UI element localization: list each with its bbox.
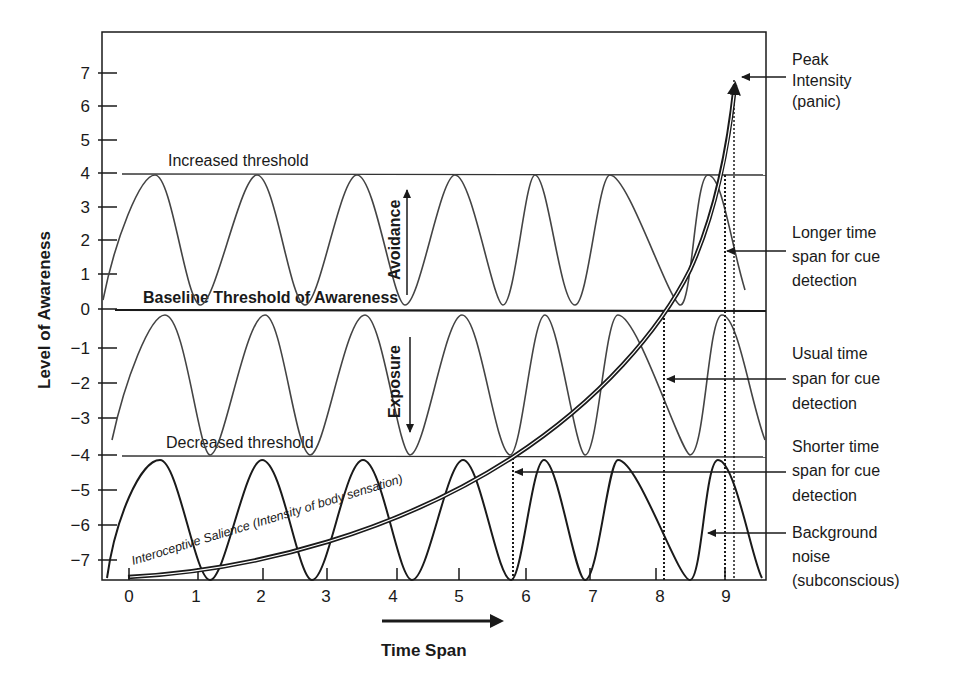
longer-label-line1: Longer time [792, 224, 877, 241]
increased-threshold-line [122, 174, 766, 175]
y-tick-label: −2 [71, 374, 90, 393]
exposure-label: Exposure [386, 345, 403, 418]
y-tick-label: −4 [71, 446, 90, 465]
y-tick-label: 4 [81, 164, 90, 183]
x-tick-label: 6 [521, 587, 530, 606]
y-tick-label: 5 [81, 131, 90, 150]
x-tick-label: 2 [256, 587, 265, 606]
y-tick-label: −6 [71, 516, 90, 535]
y-axis-ticks [98, 73, 117, 560]
x-tick-label: 0 [124, 587, 133, 606]
interoceptive-salience-label: Interoceptive Salience (Intensity of bod… [130, 472, 405, 568]
x-tick-label: 8 [655, 587, 664, 606]
y-tick-label: 6 [81, 97, 90, 116]
y-tick-label: 3 [81, 198, 90, 217]
x-tick-label: 7 [588, 587, 597, 606]
usual-label-line1: Usual time [792, 345, 868, 362]
y-tick-labels: 7 6 5 4 3 2 1 0 −1 −2 −3 −4 −5 −6 −7 [71, 64, 90, 570]
upper-oscillation-wave [103, 175, 745, 305]
awareness-diagram: 7 6 5 4 3 2 1 0 −1 −2 −3 −4 −5 −6 −7 Lev… [0, 0, 953, 685]
plot-frame [102, 32, 766, 580]
decreased-threshold-label: Decreased threshold [166, 434, 314, 451]
x-tick-label: 3 [321, 587, 330, 606]
x-tick-label: 1 [191, 587, 200, 606]
y-tick-label: 7 [81, 64, 90, 83]
shorter-label-line1: Shorter time [792, 438, 879, 455]
usual-label-line3: detection [792, 395, 857, 412]
y-axis-title: Level of Awareness [35, 231, 54, 389]
y-tick-label: −3 [71, 409, 90, 428]
x-axis-title: Time Span [381, 641, 467, 660]
increased-threshold-label: Increased threshold [168, 152, 309, 169]
decreased-threshold-line [122, 456, 766, 457]
peak-label-line3: (panic) [792, 93, 841, 110]
shorter-label-line3: detection [792, 487, 857, 504]
background-label-line1: Background [792, 524, 877, 541]
x-tick-label: 4 [388, 587, 397, 606]
y-tick-label: −1 [71, 339, 90, 358]
y-tick-label: −5 [71, 481, 90, 500]
y-tick-label: 1 [81, 265, 90, 284]
usual-label-line2: span for cue [792, 370, 880, 387]
longer-label-line2: span for cue [792, 248, 880, 265]
peak-label-line2: Intensity [792, 72, 852, 89]
x-tick-label: 9 [721, 587, 730, 606]
peak-label-line1: Peak [792, 51, 829, 68]
y-tick-label: −7 [71, 551, 90, 570]
y-tick-label: 2 [81, 231, 90, 250]
x-tick-label: 5 [454, 587, 463, 606]
avoidance-label: Avoidance [386, 200, 403, 280]
x-tick-labels: 0 1 2 3 4 5 6 7 8 9 [124, 587, 730, 606]
shorter-label-line2: span for cue [792, 462, 880, 479]
longer-label-line3: detection [792, 272, 857, 289]
baseline-threshold-label: Baseline Threshold of Awareness [143, 289, 398, 306]
y-tick-label: 0 [81, 300, 90, 319]
background-label-line3: (subconscious) [792, 572, 900, 589]
background-label-line2: noise [792, 548, 830, 565]
